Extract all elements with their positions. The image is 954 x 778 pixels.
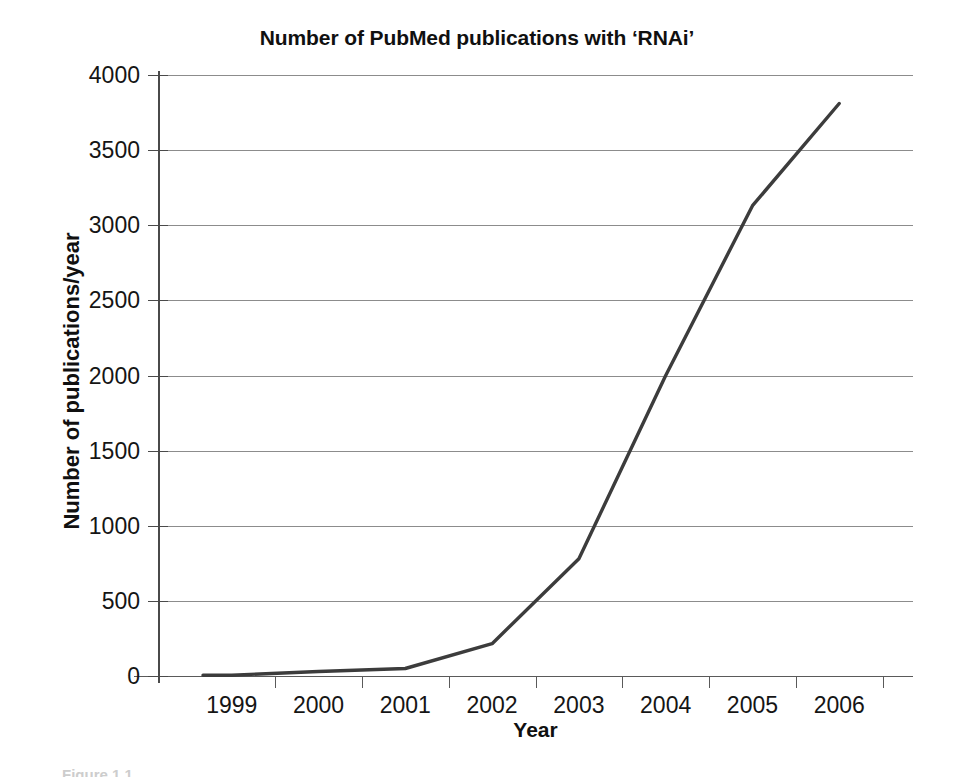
gridline [158,526,913,527]
x-tick-mark [709,676,710,688]
y-tick-mark [148,601,168,602]
figure-root: Number of PubMed publications with ‘RNAi… [0,0,954,778]
y-tick-label-group: 05001000150020002500300035004000 [8,0,140,778]
gridline [158,300,913,301]
y-tick-label: 500 [20,587,140,614]
gridline [158,225,913,226]
figure-caption: Figure 1.1 [62,766,133,777]
y-tick-label: 1500 [20,437,140,464]
x-tick-mark [449,676,450,688]
gridline [158,376,913,377]
y-tick-mark [148,451,168,452]
x-tick-mark [796,676,797,688]
y-tick-mark [148,225,168,226]
y-tick-label: 3500 [20,137,140,164]
gridline [158,451,913,452]
y-tick-label: 4000 [20,62,140,89]
x-tick-mark [622,676,623,688]
gridline [158,75,913,76]
x-tick-mark [883,676,884,688]
y-tick-mark [148,526,168,527]
y-tick-mark [148,676,168,677]
x-tick-mark [362,676,363,688]
x-tick-label: 2006 [784,692,894,719]
y-tick-mark [148,75,168,76]
y-axis-line [158,71,160,683]
x-axis-title: Year [158,718,913,742]
y-tick-label: 2500 [20,287,140,314]
y-tick-mark [148,376,168,377]
y-tick-mark [148,300,168,301]
y-tick-label: 3000 [20,212,140,239]
plot-area [158,75,913,676]
x-tick-mark [275,676,276,688]
x-tick-mark [536,676,537,688]
gridline [158,150,913,151]
y-tick-mark [148,150,168,151]
y-tick-label: 0 [20,663,140,690]
y-tick-label: 1000 [20,512,140,539]
chart-title: Number of PubMed publications with ‘RNAi… [0,26,954,50]
gridline [158,601,913,602]
y-tick-label: 2000 [20,362,140,389]
